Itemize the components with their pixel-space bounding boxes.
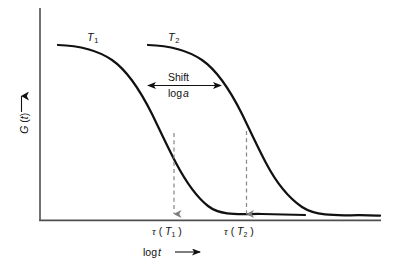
figure-container: T1 T2 Shift loga τ ( T1 ) τ ( T2 ) logt … xyxy=(0,0,402,271)
tau-symbol-1: τ xyxy=(152,226,156,237)
x-tick-label-tau-T2: τ ( T2 ) xyxy=(224,226,254,238)
curve-label-T2-var: T xyxy=(168,31,175,43)
curve-label-T1-sub: 1 xyxy=(94,36,99,45)
x-axis-title-variable: t xyxy=(157,246,161,258)
tau-paren-close-2: ) xyxy=(250,225,254,237)
x-axis-title: logt xyxy=(143,247,161,258)
tau-arg-sub-1: 1 xyxy=(172,231,176,238)
x-tick-label-tau-T1: τ ( T1 ) xyxy=(152,226,182,238)
x-axis-title-prefix: log xyxy=(143,246,157,258)
tau-paren-open-2: ( xyxy=(231,225,235,237)
tau-paren-open-1: ( xyxy=(159,225,163,237)
y-axis-title: G (t) xyxy=(19,101,30,145)
tau-arg-sub-2: 2 xyxy=(244,231,248,238)
shift-log-variable: a xyxy=(182,87,189,99)
curve-label-T1: T1 xyxy=(87,32,98,45)
shift-annotation-quantity: loga xyxy=(168,88,189,99)
curve-label-T2-sub: 2 xyxy=(175,36,180,45)
shift-annotation-label: Shift xyxy=(168,72,189,83)
y-axis-title-arg: (t) xyxy=(18,113,30,123)
y-axis-title-symbol: G xyxy=(18,126,30,134)
curve-label-T1-var: T xyxy=(87,31,94,43)
plot-canvas xyxy=(0,0,402,271)
tau-paren-close-1: ) xyxy=(178,225,182,237)
tau-symbol-2: τ xyxy=(224,226,228,237)
curve-label-T2: T2 xyxy=(168,32,179,45)
shift-log-prefix: log xyxy=(168,87,182,99)
